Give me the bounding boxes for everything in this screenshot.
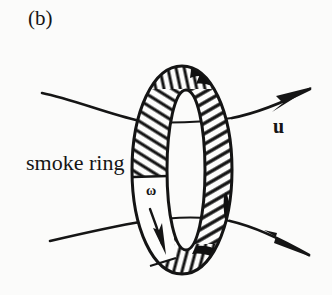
smoke-ring-diagram [0,0,332,295]
panel-label: (b) [28,8,53,29]
velocity-label: u [273,116,284,136]
smoke-ring-label: smoke ring [26,152,124,174]
ring-white-band-edge-top [133,176,168,177]
figure-panel-b: (b) smoke ring u ω [0,0,332,295]
vorticity-label: ω [146,184,156,198]
